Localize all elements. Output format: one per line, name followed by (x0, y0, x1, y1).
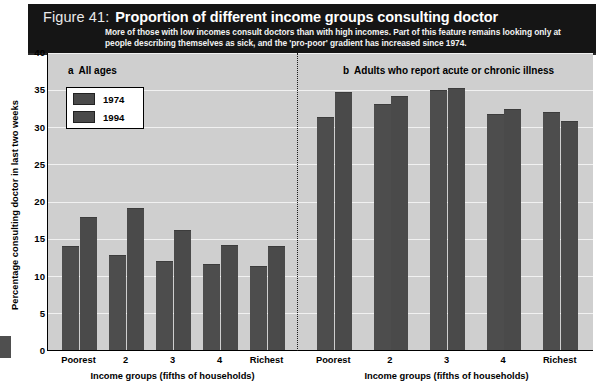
bar-b-4-1994 (561, 121, 578, 350)
panel-divider (297, 53, 298, 351)
panel-a-title: All ages (79, 65, 117, 76)
legend-label-1974: 1974 (103, 94, 124, 105)
bar-a-0-1974 (62, 246, 79, 350)
figure-number: Figure 41: (43, 9, 109, 25)
bar-a-1-1974 (109, 255, 126, 350)
bar-b-0-1994 (335, 92, 352, 351)
y-axis-title: Percentage consulting doctor in last two… (10, 55, 20, 355)
x-tick-label: Richest (520, 355, 596, 365)
bar-a-0-1994 (80, 217, 97, 350)
bar-a-3-1994 (221, 245, 238, 350)
bar-b-1-1994 (391, 96, 408, 350)
x-axis-title: Income groups (fifths of households) (33, 371, 313, 381)
gridline (48, 53, 593, 54)
panel-a-heading: aAll ages (68, 65, 117, 76)
plot-area: aAll ages bAdults who report acute or ch… (47, 53, 593, 351)
y-axis: 0510152025303540 (0, 0, 45, 388)
figure-subtitle: More of those with low incomes consult d… (105, 27, 585, 49)
figure-page: Figure 41:Proportion of different income… (0, 0, 596, 388)
legend-label-1994: 1994 (103, 112, 124, 123)
x-axis-title: Income groups (fifths of households) (307, 371, 587, 381)
bar-a-4-1974 (250, 266, 267, 350)
legend-swatch-1974 (73, 93, 95, 105)
panel-b-heading: bAdults who report acute or chronic illn… (343, 65, 554, 76)
bar-b-3-1974 (487, 114, 504, 350)
bar-b-2-1994 (448, 88, 465, 350)
bar-a-3-1974 (203, 264, 220, 350)
title-row: Figure 41:Proportion of different income… (43, 8, 498, 26)
bar-a-1-1994 (127, 208, 144, 350)
bar-b-4-1974 (543, 112, 560, 350)
bar-a-2-1994 (174, 230, 191, 350)
page-title: Proportion of different income groups co… (115, 9, 498, 25)
panel-b-letter: b (343, 65, 349, 76)
bar-b-2-1974 (430, 90, 447, 350)
panel-b-title: Adults who report acute or chronic illne… (354, 65, 554, 76)
title-banner: Figure 41:Proportion of different income… (28, 4, 596, 53)
bar-b-0-1974 (317, 117, 334, 350)
bar-a-2-1974 (156, 261, 173, 350)
bar-b-1-1974 (374, 104, 391, 350)
legend: 1974 1994 (66, 87, 144, 129)
panel-a-letter: a (68, 65, 74, 76)
legend-swatch-1994 (73, 111, 95, 123)
bar-b-3-1994 (504, 109, 521, 350)
bar-a-4-1994 (268, 246, 285, 350)
